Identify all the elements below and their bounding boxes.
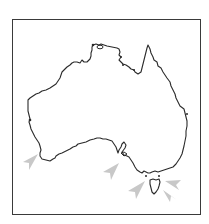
gulf-islet [120, 56, 122, 58]
tiwi-island [97, 45, 103, 49]
australia-mainland-coastline [28, 44, 187, 173]
king-island [145, 175, 147, 177]
arrow-bass-strait-east-icon [165, 180, 181, 190]
arrow-markers [23, 154, 181, 202]
east-coast-islet [186, 113, 188, 115]
arrow-southwest-wa-icon [23, 154, 38, 170]
tasmania [150, 179, 160, 194]
arrow-south-australia-icon [103, 163, 119, 180]
australia-map [0, 0, 209, 224]
queensland-islet [133, 69, 135, 71]
west-coast-islet [29, 119, 32, 122]
northern-islet [92, 44, 95, 47]
arrow-tasman-southeast-icon [163, 190, 177, 202]
gulf-islet-2 [122, 64, 124, 66]
arrow-bass-strait-west-icon [128, 181, 145, 199]
flinders-island [158, 175, 160, 177]
